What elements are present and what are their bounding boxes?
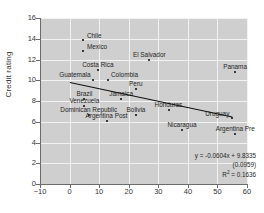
x-tick-label: 0: [58, 188, 82, 196]
x-tick-label: 40: [176, 188, 200, 196]
data-point: [120, 98, 122, 100]
y-tick: [36, 80, 40, 81]
data-point: [92, 79, 94, 81]
data-point-label: Argentina Pre: [216, 125, 255, 132]
data-point-label: Mexico: [87, 43, 107, 50]
scatter-chart: Credit rating ChileMexicoEl SalvadorPana…: [0, 0, 264, 213]
data-point: [168, 109, 170, 111]
standard-error: (0.0959): [164, 161, 256, 170]
regression-annotation: y = -0.0604x + 9.8335 (0.0959) R2 = 0.16…: [164, 152, 256, 180]
y-tick: [36, 18, 40, 19]
y-tick: [36, 39, 40, 40]
data-point-label: Argentina Post: [86, 112, 128, 119]
data-point: [135, 114, 137, 116]
y-tick-label: 16: [18, 14, 36, 22]
y-tick-label: 6: [18, 118, 36, 126]
data-point-label: El Salvador: [133, 51, 166, 58]
y-axis-title: Credit rating: [4, 15, 13, 135]
x-tick-label: 50: [205, 188, 229, 196]
regression-equation: y = -0.0604x + 9.8335: [164, 152, 256, 161]
data-point: [148, 59, 150, 61]
gridline-x: [129, 18, 130, 184]
y-tick-label: 8: [18, 97, 36, 105]
y-tick-label: 12: [18, 56, 36, 64]
gridline-y: [40, 143, 247, 144]
y-tick: [36, 143, 40, 144]
x-tick-label: 10: [87, 188, 111, 196]
gridline-y: [40, 39, 247, 40]
y-tick-label: 10: [18, 76, 36, 84]
data-point-label: Peru: [129, 80, 143, 87]
data-point-label: Costa Rica: [82, 61, 113, 68]
r-squared: R2 = 0.1636: [164, 169, 256, 180]
data-point: [234, 71, 236, 73]
x-tick-label: 30: [146, 188, 170, 196]
data-point-label: Nicaragua: [167, 121, 196, 128]
data-point-label: Bolivia: [127, 106, 146, 113]
data-point: [135, 88, 137, 90]
y-tick-label: 2: [18, 159, 36, 167]
data-point-label: Colombia: [111, 71, 138, 78]
data-point-label: Chile: [87, 32, 102, 39]
y-tick: [36, 60, 40, 61]
gridline-y: [40, 122, 247, 123]
gridline-y: [40, 80, 247, 81]
data-point-label: Panama: [223, 63, 247, 70]
data-point-label: Brazil: [76, 90, 92, 97]
y-tick: [36, 163, 40, 164]
y-tick-label: 14: [18, 35, 36, 43]
y-tick: [36, 101, 40, 102]
x-tick-label: 20: [117, 188, 141, 196]
data-point: [107, 79, 109, 81]
data-point-label: Guatemala: [59, 71, 90, 78]
x-tick-label: 60: [235, 188, 259, 196]
data-point-label: Venezuela: [69, 97, 99, 104]
gridline-y: [40, 18, 247, 19]
data-point: [97, 69, 99, 71]
gridline-y: [40, 60, 247, 61]
data-point: [106, 120, 108, 122]
r-squared-value: = 0.1636: [230, 171, 256, 178]
data-point: [82, 50, 84, 52]
y-axis-line: [40, 18, 41, 185]
y-tick: [36, 122, 40, 123]
y-tick-label: 4: [18, 139, 36, 147]
data-point: [82, 39, 84, 41]
data-point: [181, 129, 183, 131]
data-point: [234, 133, 236, 135]
x-tick-label: −10: [28, 188, 52, 196]
